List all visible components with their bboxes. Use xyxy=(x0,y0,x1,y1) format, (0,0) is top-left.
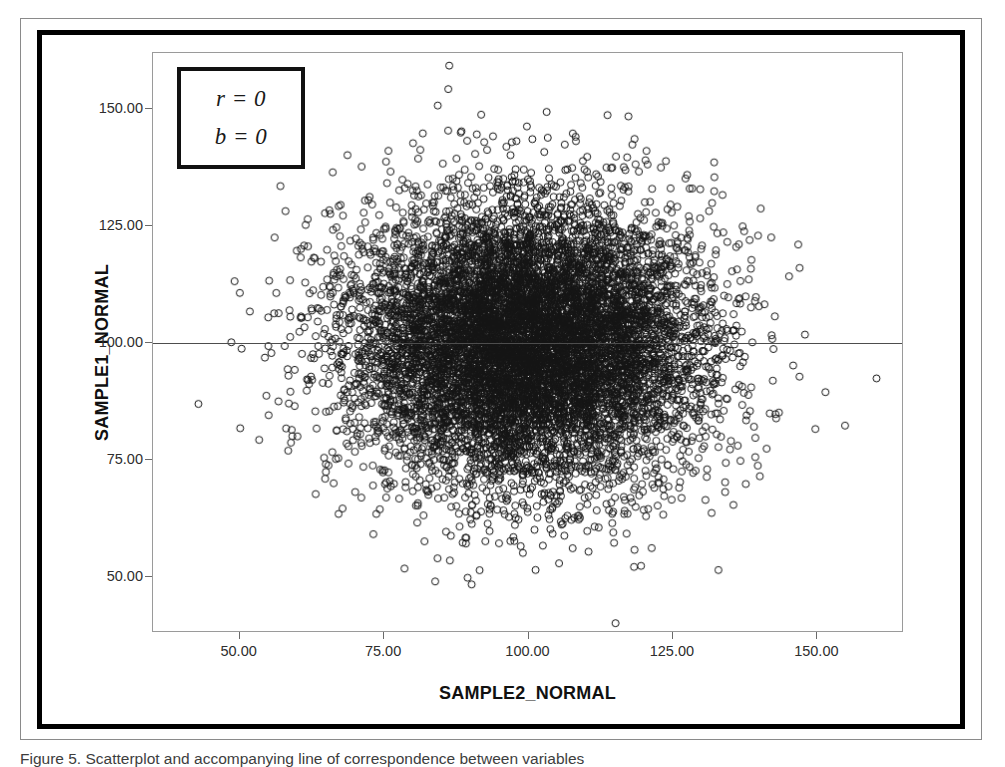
y-tick-label: 125.00 xyxy=(99,217,152,233)
x-tick-label: 150.00 xyxy=(794,643,838,659)
y-tick-label: 150.00 xyxy=(99,100,152,116)
x-tick-label: 100.00 xyxy=(505,643,549,659)
x-tick-mark xyxy=(528,632,529,639)
figure-caption: Figure 5. Scatterplot and accompanying l… xyxy=(20,750,960,767)
y-tick-label: 50.00 xyxy=(107,568,152,584)
x-tick-label: 50.00 xyxy=(220,643,256,659)
x-tick-mark xyxy=(672,632,673,639)
y-tick-label: 75.00 xyxy=(107,451,152,467)
x-tick-mark xyxy=(816,632,817,639)
scatterplot-figure: SAMPLE1_NORMAL 50.0075.00100.00125.00150… xyxy=(42,35,960,724)
x-tick-label: 125.00 xyxy=(650,643,694,659)
figure-page: SAMPLE1_NORMAL 50.0075.00100.00125.00150… xyxy=(0,0,1005,767)
x-tick-mark xyxy=(239,632,240,639)
x-tick-mark xyxy=(383,632,384,639)
y-axis-title: SAMPLE1_NORMAL xyxy=(92,143,113,563)
x-axis-title: SAMPLE2_NORMAL xyxy=(152,683,903,704)
slope-value: b = 0 xyxy=(215,124,268,150)
correlation-value: r = 0 xyxy=(216,86,266,112)
statistics-annotation-box: r = 0 b = 0 xyxy=(177,67,305,169)
x-tick-label: 75.00 xyxy=(365,643,401,659)
y-tick-label: 100.00 xyxy=(99,334,152,350)
